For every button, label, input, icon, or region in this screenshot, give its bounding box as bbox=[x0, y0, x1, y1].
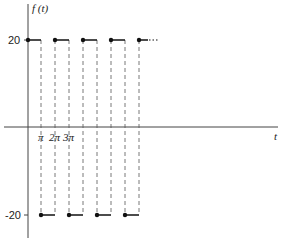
x-axis-label: t bbox=[274, 130, 278, 142]
y-tick-low: -20 bbox=[5, 209, 21, 221]
y-tick-high: 20 bbox=[8, 34, 20, 46]
x-tick-3pi: 3π bbox=[62, 131, 75, 143]
square-wave-chart: f (t) t 20 -20 π 2π 3π bbox=[0, 0, 281, 242]
y-axis-label: f (t) bbox=[32, 2, 49, 15]
